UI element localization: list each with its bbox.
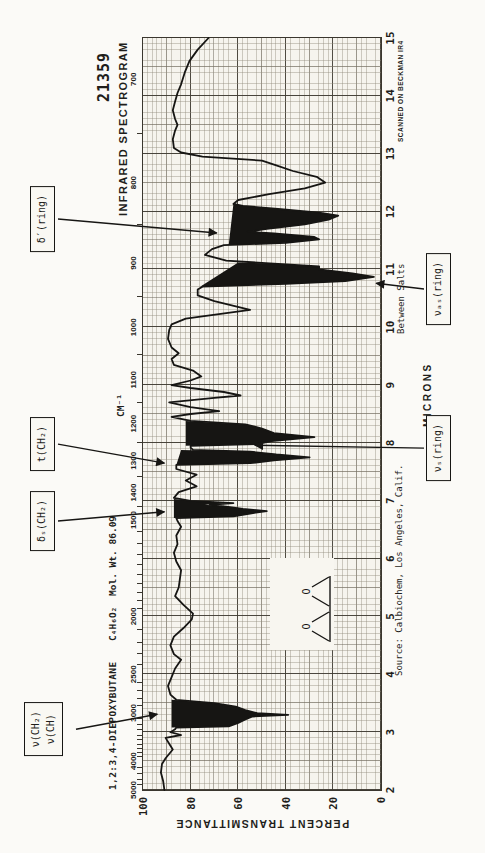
cm-label: 1100 bbox=[129, 371, 138, 388]
band-assignment-box: νₛ(ring) bbox=[426, 415, 451, 481]
cm-tick bbox=[137, 354, 142, 355]
cm-tick bbox=[137, 564, 142, 565]
t-label: 20 bbox=[327, 797, 339, 839]
micron-label: 3 bbox=[384, 729, 397, 736]
band-assignment-label: δ′(ring) bbox=[35, 195, 50, 243]
cm-tick bbox=[137, 729, 142, 730]
cm-tick bbox=[137, 682, 142, 683]
molecular-weight: Mol. Wt. 86.09 bbox=[107, 516, 118, 596]
cm-label: 900 bbox=[129, 256, 138, 269]
band-assignment-label: ν(CH₂) bbox=[29, 711, 44, 747]
cm-tick bbox=[137, 224, 142, 225]
cm-tick bbox=[137, 752, 142, 753]
micron-label: 13 bbox=[384, 147, 397, 160]
band-assignment-box: δₛ(CH₂) bbox=[30, 491, 55, 551]
band-assignment-box: νₐₛ(ring) bbox=[426, 253, 451, 325]
micron-label: 12 bbox=[384, 205, 397, 218]
cm-label: 700 bbox=[129, 73, 138, 86]
micron-label: 11 bbox=[384, 263, 397, 276]
cm-tick bbox=[137, 543, 142, 544]
cm-label: 800 bbox=[129, 176, 138, 189]
cm-tick bbox=[137, 744, 142, 745]
band-assignment-label: νₛ(ring) bbox=[431, 424, 446, 472]
cm-tick bbox=[137, 532, 142, 533]
cm-tick bbox=[137, 506, 142, 507]
chemical-formula: C₄H₆O₂ bbox=[107, 607, 118, 641]
cm-tick bbox=[137, 767, 142, 768]
micron-label: 14 bbox=[384, 89, 397, 102]
cm-tick bbox=[137, 296, 142, 297]
band-assignment-label: ν(CH) bbox=[44, 711, 59, 747]
cm-tick bbox=[137, 442, 142, 443]
wavenumber-axis-title: CM⁻¹ bbox=[115, 394, 126, 417]
cm-tick bbox=[137, 653, 142, 654]
t-label: 100 bbox=[137, 797, 149, 839]
cm-tick bbox=[137, 642, 142, 643]
cm-tick bbox=[137, 756, 142, 757]
band-assignment-box: t(CH₂) bbox=[30, 417, 55, 471]
t-label: 0 bbox=[375, 797, 387, 839]
cm-label: 1400 bbox=[129, 484, 138, 502]
micron-label: 10 bbox=[384, 321, 397, 334]
cm-tick bbox=[137, 698, 142, 699]
micron-label: 7 bbox=[384, 497, 397, 504]
cm-label: 1000 bbox=[129, 318, 138, 336]
scanned-spectrogram-page: O O 1,2:3,4-DIEPOXYBUTANE C₄H₆O₂ Mol. Wt… bbox=[0, 0, 485, 853]
cm-label: 3000 bbox=[129, 704, 138, 722]
spectrogram-sheet: O O 1,2:3,4-DIEPOXYBUTANE C₄H₆O₂ Mol. Wt… bbox=[0, 0, 485, 853]
band-assignment-label: t(CH₂) bbox=[35, 426, 50, 462]
sample-source: Source: Calbiochem, Los Angeles, Calif. bbox=[394, 465, 404, 676]
cm-tick bbox=[137, 476, 142, 477]
t-label: 80 bbox=[185, 797, 197, 839]
cm-tick bbox=[137, 608, 142, 609]
cm-tick bbox=[137, 583, 142, 584]
transmittance-axis-title: PERCENT TRANSMITTANCE bbox=[173, 818, 351, 830]
micron-label: 2 bbox=[384, 787, 397, 794]
plot-grid bbox=[142, 37, 382, 791]
cm-label: 1300 bbox=[129, 452, 138, 470]
micron-label: 15 bbox=[384, 31, 397, 44]
band-assignment-box: δ′(ring) bbox=[30, 186, 55, 252]
cm-tick bbox=[137, 739, 142, 740]
sample-prep-note: Between Salts bbox=[396, 264, 406, 334]
micron-label: 4 bbox=[384, 671, 397, 678]
micron-label: 8 bbox=[384, 440, 397, 447]
band-assignment-label: δₛ(CH₂) bbox=[35, 500, 50, 542]
cm-tick bbox=[137, 779, 142, 780]
cm-label: 2000 bbox=[129, 608, 138, 626]
cm-tick bbox=[137, 629, 142, 630]
cm-tick bbox=[137, 402, 142, 403]
micron-label: 9 bbox=[384, 382, 397, 389]
cm-tick bbox=[137, 690, 142, 691]
cm-label: 1200 bbox=[129, 415, 138, 433]
band-assignment-box: ν(CH₂)ν(CH) bbox=[24, 702, 63, 756]
scanner-note: SCANNED ON BECKMAN IR4 bbox=[397, 40, 404, 142]
cm-tick bbox=[137, 773, 142, 774]
cm-tick bbox=[137, 554, 142, 555]
page-title: INFRARED SPECTROGRAM bbox=[117, 41, 129, 216]
micron-label: 6 bbox=[384, 555, 397, 562]
t-label: 60 bbox=[232, 797, 244, 839]
cm-tick bbox=[137, 705, 142, 706]
cm-tick bbox=[137, 133, 142, 134]
cm-label: 1500 bbox=[129, 511, 138, 529]
cm-label: 2500 bbox=[129, 665, 138, 683]
cm-tick bbox=[137, 784, 142, 785]
cm-tick bbox=[137, 735, 142, 736]
cm-tick bbox=[137, 600, 142, 601]
cm-tick bbox=[137, 664, 142, 665]
cm-tick bbox=[137, 574, 142, 575]
t-label: 40 bbox=[280, 797, 292, 839]
cm-tick bbox=[137, 748, 142, 749]
cm-tick bbox=[137, 592, 142, 593]
compound-name: 1,2:3,4-DIEPOXYBUTANE bbox=[107, 661, 118, 790]
micron-label: 5 bbox=[384, 613, 397, 620]
band-assignment-label: νₐₛ(ring) bbox=[431, 262, 446, 316]
catalog-number: 21359 bbox=[95, 52, 113, 102]
cm-tick bbox=[137, 724, 142, 725]
cm-tick bbox=[137, 718, 142, 719]
